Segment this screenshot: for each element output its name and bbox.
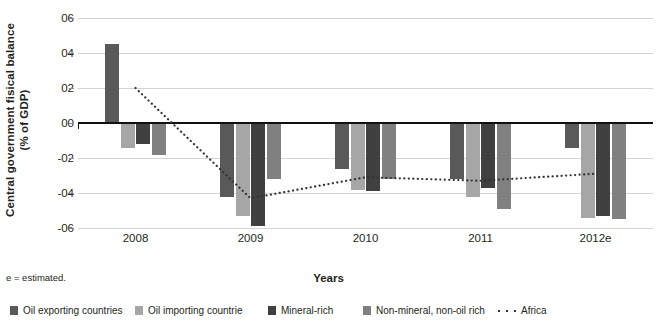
- gridline: [78, 228, 653, 229]
- y-axis-tick-mark: [69, 18, 74, 19]
- chart-legend: Oil exporting countriesOil importing cou…: [0, 305, 657, 325]
- legend-swatch-icon: [10, 306, 18, 315]
- x-axis-tick-label: 2009: [238, 232, 264, 244]
- bar: [220, 123, 234, 197]
- y-axis-tick-mark: [69, 88, 74, 89]
- legend-label: Oil importing countrie: [148, 305, 242, 316]
- legend-item[interactable]: Mineral-rich: [268, 305, 333, 316]
- legend-item[interactable]: Oil importing countrie: [135, 305, 242, 316]
- bar: [565, 123, 579, 148]
- bar: [497, 123, 511, 209]
- bar: [136, 123, 150, 144]
- y-axis-title-line2: (% of GDP): [18, 89, 30, 150]
- x-axis-tick-label: 2010: [353, 232, 379, 244]
- legend-item[interactable]: Non-mineral, non-oil rich: [363, 305, 485, 316]
- bar: [105, 44, 119, 123]
- bar: [481, 123, 495, 188]
- x-axis-tick-label: 2011: [468, 232, 493, 244]
- y-axis-tick-mark: [69, 53, 74, 54]
- bar: [251, 123, 265, 226]
- zero-baseline: [78, 122, 653, 124]
- bar: [267, 123, 281, 179]
- legend-label: Mineral-rich: [281, 305, 333, 316]
- bar: [596, 123, 610, 216]
- bar: [581, 123, 595, 218]
- x-axis-tick-label: 2008: [123, 232, 149, 244]
- x-axis-title: Years: [0, 272, 657, 284]
- legend-item[interactable]: Africa: [498, 305, 547, 316]
- bar: [236, 123, 250, 216]
- plot-area: [78, 18, 653, 228]
- bar: [450, 123, 464, 179]
- chart-figure: Central government fisical balance (% of…: [0, 0, 657, 332]
- y-axis-tick-mark: [69, 193, 74, 194]
- bar: [382, 123, 396, 179]
- bar: [335, 123, 349, 169]
- legend-item[interactable]: Oil exporting countries: [10, 305, 123, 316]
- y-axis-title: Central government fisical balance (% of…: [0, 0, 34, 240]
- legend-swatch-icon: [268, 306, 276, 315]
- y-axis-title-line1: Central government fisical balance: [4, 23, 16, 217]
- legend-label: Non-mineral, non-oil rich: [376, 305, 485, 316]
- x-axis-tick-labels: 20082009201020112012e: [78, 232, 653, 250]
- x-axis-tick-label: 2012e: [580, 232, 612, 244]
- legend-dotted-line-icon: [498, 306, 516, 315]
- legend-swatch-icon: [135, 306, 143, 315]
- bar: [351, 123, 365, 190]
- bar: [612, 123, 626, 219]
- bar: [152, 123, 166, 155]
- y-axis-tick-mark: [69, 228, 74, 229]
- y-axis-tick-mark: [69, 123, 74, 124]
- bar: [466, 123, 480, 197]
- legend-label: Oil exporting countries: [23, 305, 123, 316]
- bar: [121, 123, 135, 148]
- bar: [366, 123, 380, 191]
- legend-swatch-icon: [363, 306, 371, 315]
- y-axis-tick-mark: [69, 158, 74, 159]
- y-axis-tick-labels: 06040200-02-04-06: [30, 18, 74, 228]
- legend-label: Africa: [521, 305, 547, 316]
- footnote: e = estimated.: [6, 272, 66, 283]
